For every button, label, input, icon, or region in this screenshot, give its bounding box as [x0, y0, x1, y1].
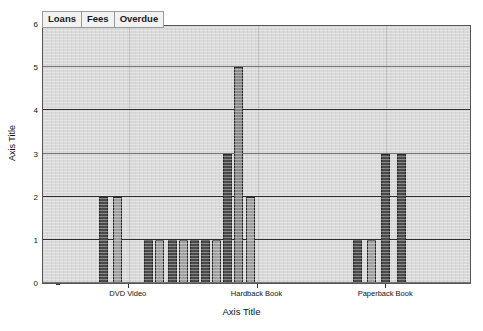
x-axis-category-label: Paperback Book	[358, 289, 413, 298]
bar[interactable]	[144, 240, 153, 283]
x-axis-tick-labels: DVD VideoHardback BookPaperback Book	[42, 284, 471, 304]
x-tick-mark-1	[257, 284, 258, 288]
bar[interactable]	[353, 240, 362, 283]
y-tick-label-1: 1	[20, 237, 38, 245]
category-separator-1	[258, 26, 259, 283]
bar[interactable]	[223, 154, 232, 284]
x-tick-mark-2	[385, 284, 386, 288]
bar[interactable]	[168, 240, 177, 283]
y-axis-title: Axis Title	[7, 113, 17, 173]
x-axis-category-label: Hardback Book	[231, 289, 282, 298]
x-axis-title: Axis Title	[0, 306, 483, 317]
bar[interactable]	[179, 240, 188, 283]
x-tick-mark-0	[128, 284, 129, 288]
y-tick-label-3: 3	[20, 151, 38, 159]
gridline-4	[43, 109, 470, 110]
y-axis-tick-labels: 0123456	[18, 0, 38, 331]
gridline-5	[43, 66, 470, 67]
gridline-3	[43, 153, 470, 154]
bar[interactable]	[99, 197, 108, 283]
legend-item-fees[interactable]: Fees	[82, 12, 115, 27]
legend-item-loans[interactable]: Loans	[43, 12, 82, 27]
bar[interactable]	[212, 240, 221, 283]
bar[interactable]	[246, 197, 255, 283]
y-tick-label-6: 6	[20, 21, 38, 29]
bar-chart-figure: Loans Fees Overdue Axis Title 0123456 DV…	[0, 0, 483, 331]
category-separator-0	[129, 26, 130, 283]
plot-area	[42, 25, 471, 284]
y-tick-label-2: 2	[20, 194, 38, 202]
bar[interactable]	[190, 240, 199, 283]
bar[interactable]	[155, 240, 164, 283]
bar[interactable]	[367, 240, 376, 283]
x-axis-category-label: DVD Video	[109, 289, 146, 298]
y-tick-label-0: 0	[20, 280, 38, 288]
chart-legend[interactable]: Loans Fees Overdue	[42, 11, 164, 28]
legend-item-overdue[interactable]: Overdue	[115, 12, 164, 27]
bar[interactable]	[397, 154, 406, 284]
bar[interactable]	[234, 67, 243, 283]
bar[interactable]	[201, 240, 210, 283]
bar[interactable]	[113, 197, 122, 283]
bar[interactable]	[381, 154, 390, 284]
y-tick-label-5: 5	[20, 64, 38, 72]
y-tick-label-4: 4	[20, 107, 38, 115]
